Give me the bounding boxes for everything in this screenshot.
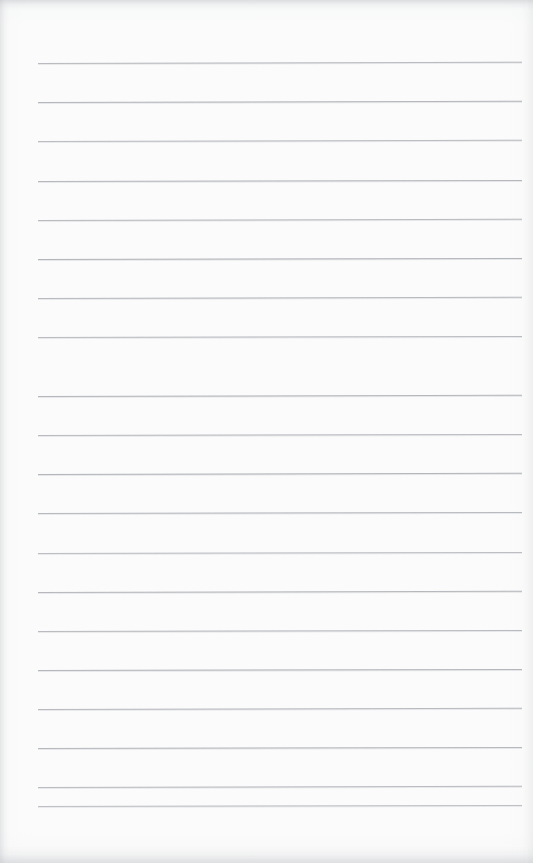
ruled-lines-group [0, 0, 533, 863]
ruled-line [38, 219, 522, 221]
scanned-page [0, 0, 533, 863]
ruled-line [38, 434, 522, 436]
ruled-line [38, 258, 522, 260]
ruled-line [38, 101, 522, 103]
ruled-line [38, 708, 522, 710]
ruled-line [38, 805, 522, 807]
ruled-line [38, 473, 522, 475]
ruled-line [38, 336, 522, 338]
ruled-line [38, 552, 522, 554]
ruled-line [38, 630, 522, 632]
ruled-line [38, 786, 522, 788]
ruled-line [38, 62, 522, 64]
ruled-line [38, 140, 522, 142]
ruled-line [38, 512, 522, 514]
ruled-line [38, 395, 522, 397]
ruled-line [38, 669, 522, 671]
ruled-line [38, 591, 522, 593]
ruled-line [38, 297, 522, 299]
ruled-line [38, 747, 522, 749]
ruled-line [38, 180, 522, 182]
